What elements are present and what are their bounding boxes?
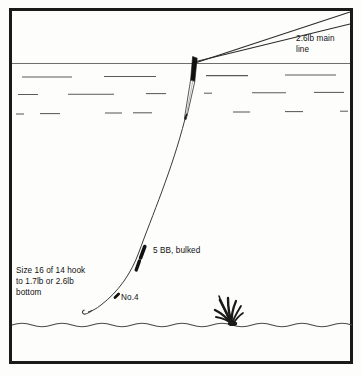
label-dropper-shot: No.4 (121, 292, 139, 303)
label-main-line: 2.6lb main line (296, 33, 335, 55)
fishing-rig-illustration (0, 0, 362, 376)
page-background (0, 0, 362, 376)
label-shot-group: 5 BB, bulked (153, 245, 200, 256)
diagram-canvas: 2.6lb main line 5 BB, bulked No.4 Size 1… (0, 0, 362, 376)
label-hook-and-bottom: Size 16 of 14 hook to 1.7lb or 2.6lb bot… (16, 265, 85, 299)
